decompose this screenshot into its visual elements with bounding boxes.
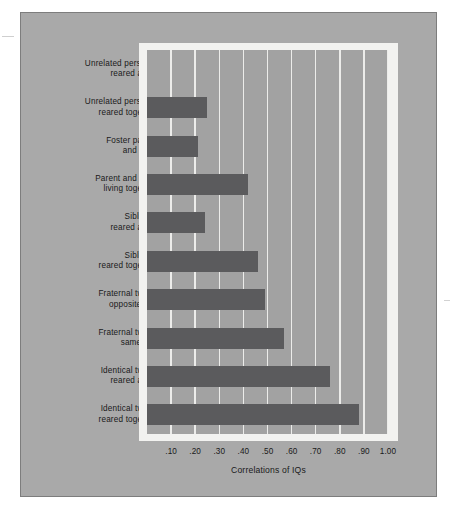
- bar: [147, 174, 248, 195]
- plot-frame: [139, 43, 398, 441]
- x-tick-label: .80: [334, 447, 346, 456]
- x-tick-label: .70: [310, 447, 322, 456]
- x-tick-label: .20: [189, 447, 201, 456]
- x-tick-label: 1.00: [380, 447, 396, 456]
- gridline-.90: [363, 50, 365, 434]
- bar: [147, 404, 359, 425]
- registration-tick-left: [2, 36, 14, 37]
- x-tick-label: .10: [165, 447, 177, 456]
- x-axis-title: Correlations of IQs: [139, 465, 398, 475]
- bar: [147, 328, 284, 349]
- bar: [147, 136, 198, 157]
- gridline-1.00: [387, 50, 388, 434]
- registration-tick-right: [444, 300, 450, 301]
- bar: [147, 251, 258, 272]
- bar: [147, 366, 330, 387]
- bar: [147, 289, 265, 310]
- plot-area: [147, 50, 388, 434]
- x-tick-label: .90: [358, 447, 370, 456]
- x-tick-label: .40: [238, 447, 250, 456]
- bar: [147, 97, 207, 118]
- bar: [147, 212, 205, 233]
- x-tick-label: .30: [213, 447, 225, 456]
- gridline-.80: [339, 50, 341, 434]
- x-tick-label: .50: [262, 447, 274, 456]
- figure-panel: Unrelated persons,reared apartUnrelated …: [20, 12, 437, 497]
- x-axis-tick-labels: .10.20.30.40.50.60.70.80.901.00: [147, 447, 407, 459]
- chart-page: Unrelated persons,reared apartUnrelated …: [0, 0, 456, 515]
- x-tick-label: .60: [286, 447, 298, 456]
